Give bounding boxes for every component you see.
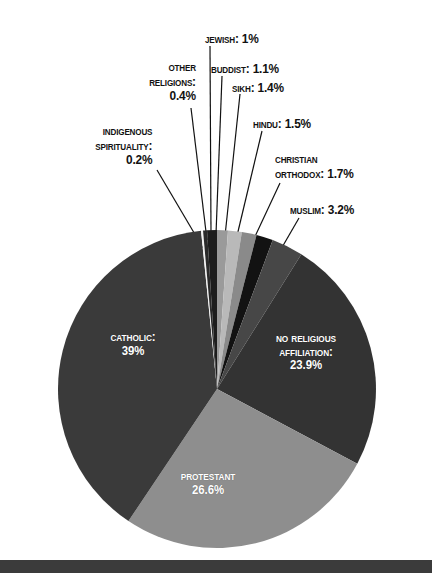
slice-label-catholic: Catholic: 39% bbox=[110, 331, 155, 358]
slice-label-protestant: Protestant 26.6% bbox=[181, 470, 236, 497]
pie-slices-group bbox=[58, 230, 376, 548]
leader-line-hindu bbox=[236, 131, 262, 240]
callout-label-christian-orthodox: Christian Orthodox: 1.7% bbox=[275, 152, 354, 181]
leader-line-buddist bbox=[216, 76, 222, 234]
callout-label-indigenous-spirituality: Indigenous Spirituality: 0.2% bbox=[95, 124, 152, 168]
callout-label-hindu: Hindu: 1.5% bbox=[253, 117, 311, 132]
callout-label-jewish: Jewish: 1% bbox=[205, 32, 259, 47]
callout-label-muslim: Muslim: 3.2% bbox=[290, 203, 354, 218]
leader-line-sikh bbox=[225, 94, 240, 236]
leader-line-other-religions bbox=[191, 108, 207, 240]
slice-label-no-religious-affiliation: No religious affiliation: 23.9% bbox=[276, 332, 336, 373]
callout-label-other-religions: Other religions: 0.4% bbox=[149, 60, 196, 104]
pie-chart-figure: Indigenous Spirituality: 0.2%Other relig… bbox=[0, 0, 432, 573]
callout-label-buddist: Buddist: 1.1% bbox=[211, 62, 279, 77]
callout-label-sikh: Sikh: 1.4% bbox=[232, 81, 284, 96]
footer-bar bbox=[0, 560, 432, 573]
